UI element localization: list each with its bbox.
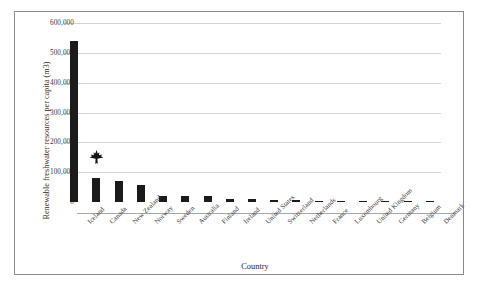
bar [92,178,100,202]
gridline [63,53,441,54]
y-axis-title-host: Renewable freshwater resources per capit… [37,30,55,220]
gridline [63,142,441,143]
bar [181,196,189,202]
y-tick-label: 600,000 [16,19,74,27]
chart-frame: 0100,000200,000300,000400,000500,000600,… [14,11,464,275]
x-axis-title: Country [195,262,315,271]
bar [404,201,412,202]
gridline [63,113,441,114]
bar [137,185,145,202]
gridline [63,23,441,24]
bar [226,199,234,202]
bar [359,201,367,202]
bar [115,181,123,202]
x-axis-tick-labels: IcelandCanadaNew ZealandNorwaySwedenAust… [77,216,467,287]
bar [292,200,300,202]
bar [381,201,389,202]
plot-area [77,34,455,213]
bar [70,41,78,202]
bar [204,196,212,202]
bar [315,201,323,202]
gridline [63,172,441,173]
x-axis-line [77,213,455,214]
maple-leaf-icon [89,149,104,165]
bar [248,199,256,202]
bar [337,201,345,202]
bar [270,200,278,202]
bar [426,201,434,202]
y-axis-title: Renewable freshwater resources per capit… [42,58,51,224]
gridline [63,83,441,84]
